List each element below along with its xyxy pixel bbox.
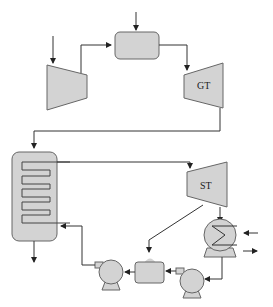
st-label: ST: [200, 180, 212, 191]
process-diagram: GT ST: [0, 0, 273, 307]
feed-pump: [95, 260, 123, 290]
steam-turbine: ST: [187, 162, 227, 207]
condenser: [204, 219, 237, 257]
condensate-pump: [176, 268, 204, 298]
extraction-line: [149, 205, 203, 252]
feedwater-line: [61, 226, 95, 265]
gas-turbine: GT: [184, 63, 223, 108]
combustor: [115, 32, 159, 59]
compressed-air-line: [81, 45, 111, 73]
gt-label: GT: [197, 80, 210, 91]
condensate-line: [205, 257, 222, 279]
hrsg: [12, 152, 70, 241]
hot-gas-line: [159, 45, 187, 70]
exhaust-line: [34, 108, 220, 148]
deaerator: [135, 259, 164, 284]
steam-line: [57, 162, 190, 168]
